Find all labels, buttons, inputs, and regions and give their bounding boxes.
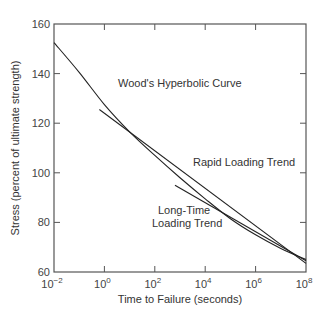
y-tick-label: 80: [38, 216, 50, 228]
y-tick-label: 100: [32, 167, 50, 179]
x-tick-label: 108: [296, 276, 313, 290]
annotation-label: Wood's Hyperbolic Curve: [118, 77, 242, 89]
chart: 10−2100102104106108 6080100120140160 Woo…: [0, 0, 327, 319]
annotation-label: Loading Trend: [152, 217, 222, 229]
x-tick-label: 106: [245, 276, 262, 290]
y-tick-label: 140: [32, 68, 50, 80]
y-axis-title: Stress (percent of ultimate strength): [9, 61, 21, 236]
x-tick-label: 102: [144, 276, 161, 290]
annotations: Wood's Hyperbolic CurveRapid Loading Tre…: [118, 77, 295, 229]
y-tick-label: 60: [38, 266, 50, 278]
y-axis-ticks: 6080100120140160: [32, 18, 306, 278]
rapid-loading-trendline: [99, 110, 306, 264]
series-lines: [54, 43, 306, 264]
x-tick-label: 100: [94, 276, 111, 290]
y-tick-label: 120: [32, 117, 50, 129]
x-tick-label: 10−2: [41, 276, 63, 290]
x-tick-label: 104: [195, 276, 212, 290]
annotation-label: Rapid Loading Trend: [193, 156, 295, 168]
annotation-label: Long-Time: [158, 204, 210, 216]
x-axis-title: Time to Failure (seconds): [118, 293, 242, 305]
y-tick-label: 160: [32, 18, 50, 30]
